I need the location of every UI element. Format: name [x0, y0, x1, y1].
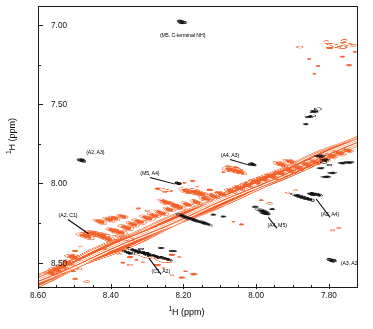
x-tick-major: [256, 284, 257, 289]
x-tick-minor: [274, 285, 275, 288]
x-tick-minor: [220, 285, 221, 288]
x-axis-title: 1H (ppm): [0, 305, 373, 317]
x-tick-minor: [238, 285, 239, 288]
plot-area: (M5, C-terminal NH)(A2, A3)(A4, A3)(M5, …: [38, 6, 358, 288]
x-tick-minor: [165, 285, 166, 288]
peak-annotation-label: (A2, C1): [59, 212, 78, 218]
y-axis-title-text: H (ppm): [7, 118, 17, 151]
y-tick-major: [38, 104, 43, 105]
x-tick-label: 8.40: [103, 291, 119, 300]
y-tick-minor: [38, 223, 41, 224]
x-tick-minor: [56, 285, 57, 288]
y-tick-minor: [38, 144, 41, 145]
y-tick-major: [38, 263, 43, 264]
x-tick-major: [183, 284, 184, 289]
y-axis-title-superscript: 1: [5, 150, 12, 154]
x-tick-minor: [147, 285, 148, 288]
y-tick-major: [38, 25, 43, 26]
y-tick-label: 8.00: [51, 179, 67, 188]
y-tick-label: 7.00: [51, 21, 67, 30]
peak-annotation-label: (A4, M5): [267, 222, 287, 228]
peak-annotation-label: (A3, A2): [341, 260, 358, 266]
peak-annotation-label: (M5, C-terminal NH): [160, 32, 205, 38]
peak-annotation-label: (A2, A3): [86, 149, 104, 155]
x-tick-minor: [293, 285, 294, 288]
x-tick-minor: [202, 285, 203, 288]
x-tick-major: [329, 284, 330, 289]
x-axis-title-text: H (ppm): [172, 307, 205, 317]
nmr-spectrum-figure: (M5, C-terminal NH)(A2, A3)(A4, A3)(M5, …: [0, 0, 373, 329]
y-tick-label: 8.50: [51, 258, 67, 267]
y-tick-major: [38, 183, 43, 184]
y-axis-title: 1H (ppm): [5, 101, 17, 171]
y-tick-label: 7.50: [51, 100, 67, 109]
x-tick-minor: [74, 285, 75, 288]
x-tick-label: 8.60: [30, 291, 46, 300]
x-tick-minor: [311, 285, 312, 288]
peak-annotation-label: (M5, A4): [140, 170, 159, 176]
x-tick-major: [111, 284, 112, 289]
x-tick-minor: [129, 285, 130, 288]
x-tick-label: 7.80: [321, 291, 337, 300]
peak-annotation-label: (A4, A3): [221, 152, 239, 158]
x-tick-major: [38, 284, 39, 289]
x-tick-label: 8.20: [175, 291, 191, 300]
x-tick-minor: [93, 285, 94, 288]
spectrum-contour-canvas: [39, 7, 357, 287]
y-tick-minor: [38, 65, 41, 66]
x-tick-label: 8.00: [248, 291, 264, 300]
